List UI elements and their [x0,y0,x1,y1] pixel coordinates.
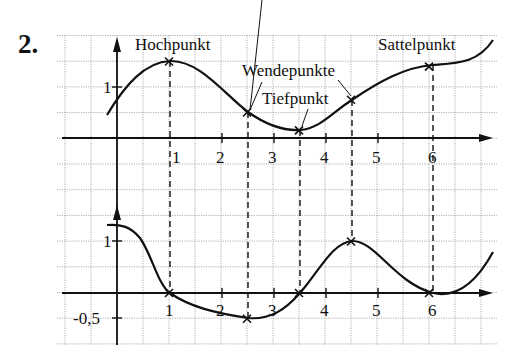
grid [57,35,497,345]
svg-text:4: 4 [320,148,329,167]
svg-text:2: 2 [216,148,225,167]
svg-text:5: 5 [372,148,381,167]
leader-wendepunkt-1 [250,0,262,110]
bottom-tick-labels: 1 2 3 4 5 6 1 -0,5 [73,232,437,328]
svg-text:5: 5 [372,301,381,320]
x-axis-arrow-icon [479,134,493,142]
svg-text:3: 3 [268,301,277,320]
y-axis-arrow-icon [113,205,121,220]
leader-tiefpunkt [302,109,308,126]
svg-text:6: 6 [428,301,437,320]
svg-text:4: 4 [320,301,329,320]
svg-text:1: 1 [103,232,112,251]
label-wendepunkte: Wendepunkte [242,61,335,80]
svg-text:1: 1 [165,301,174,320]
x-axis-arrow-icon [479,289,493,297]
svg-text:2: 2 [216,301,225,320]
label-tiefpunkt: Tiefpunkt [262,89,329,108]
leader-wendepunkt-2 [338,80,351,96]
svg-text:1: 1 [103,78,112,97]
svg-text:3: 3 [268,148,277,167]
svg-text:-0,5: -0,5 [73,309,100,328]
label-hochpunkt: Hochpunkt [135,35,211,54]
label-sattelpunkt: Sattelpunkt [378,35,456,54]
svg-text:6: 6 [428,148,437,167]
y-axis-arrow-icon [113,37,121,52]
function-derivative-figure: 1 2 3 4 5 6 1 1 2 3 4 5 6 1 -0,5 Hochpun… [0,0,505,352]
svg-text:1: 1 [172,148,181,167]
top-axes [62,37,493,345]
